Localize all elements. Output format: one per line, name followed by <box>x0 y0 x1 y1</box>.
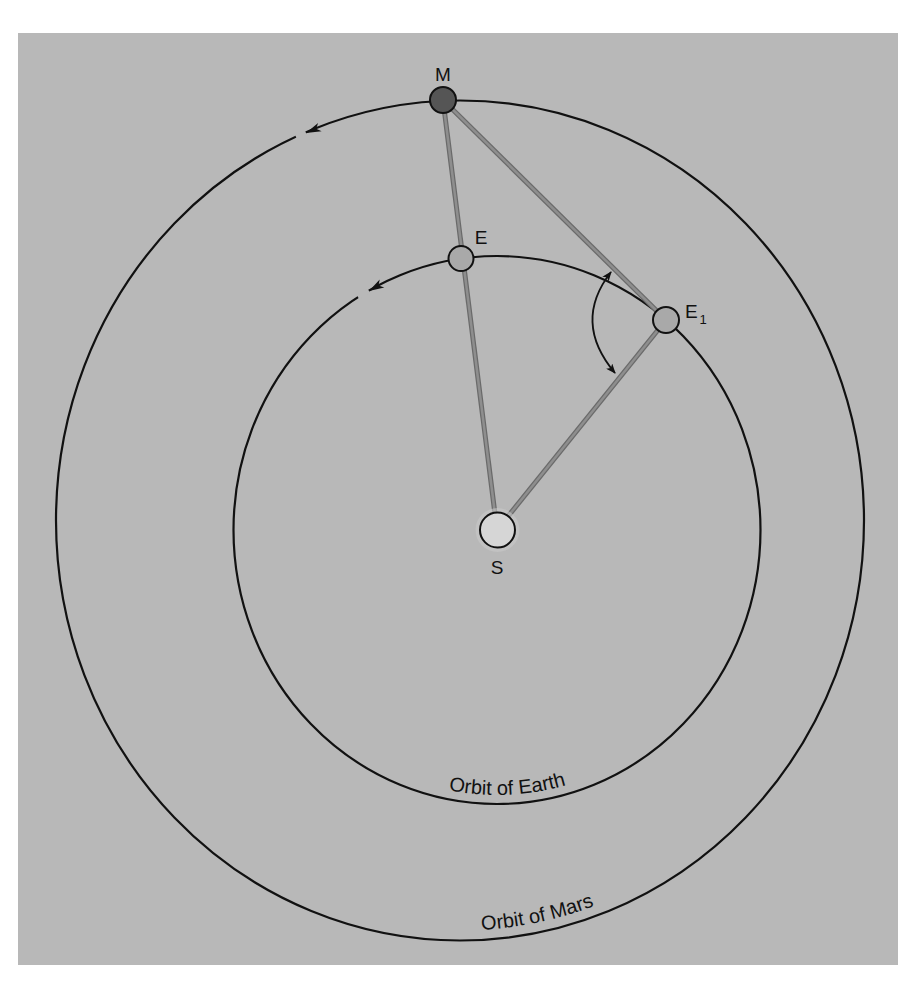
earth-label: E <box>475 227 488 248</box>
sun <box>480 513 515 548</box>
diagram-background-panel <box>18 33 898 965</box>
earth1-label: E <box>685 301 698 322</box>
mars-planet <box>430 87 456 113</box>
sun-label: S <box>491 557 504 578</box>
mars-label: M <box>435 64 451 85</box>
earth-planet <box>449 246 474 271</box>
earth1-planet <box>653 307 679 333</box>
orbit-diagram: M E E 1 S Orbit of Earth Orbit of Mars <box>0 0 911 992</box>
earth1-label-subscript: 1 <box>700 312 707 327</box>
